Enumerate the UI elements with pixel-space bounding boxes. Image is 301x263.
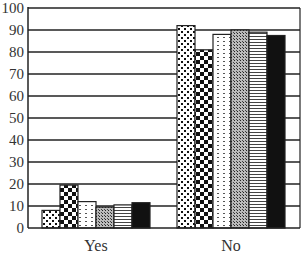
bar-no-5 [249,32,267,228]
y-tick-label: 70 [9,66,24,82]
bar-yes-4 [96,207,114,228]
bar-no-1 [177,26,195,228]
y-tick-label: 40 [9,132,24,148]
bar-no-6 [267,36,285,229]
category-label-no: No [221,237,241,254]
bar-no-3 [213,34,231,228]
bar-yes-3 [78,202,96,228]
bar-yes-1 [42,210,60,228]
y-tick-label: 10 [9,198,24,214]
bar-no-2 [195,50,213,228]
y-tick-label: 100 [2,0,25,16]
category-label-yes: Yes [84,237,107,254]
bar-chart: 0102030405060708090100 YesNo [0,0,301,263]
y-tick-label: 90 [9,22,24,38]
bars [42,26,285,228]
y-tick-label: 80 [9,44,24,60]
bar-yes-5 [114,205,132,228]
bar-yes-2 [60,185,78,228]
bar-no-4 [231,30,249,228]
y-tick-label: 30 [9,154,24,170]
y-tick-label: 20 [9,176,24,192]
bar-yes-6 [132,203,150,228]
y-tick-label: 60 [9,88,24,104]
y-axis-ticks: 0102030405060708090100 [2,0,25,236]
y-tick-label: 0 [17,220,25,236]
x-axis-categories: YesNo [84,237,240,254]
y-tick-label: 50 [9,110,24,126]
